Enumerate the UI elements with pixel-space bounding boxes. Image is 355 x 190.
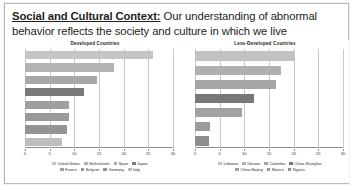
legend-swatch-icon bbox=[84, 162, 88, 166]
bar-row bbox=[195, 94, 343, 103]
bar-row bbox=[25, 88, 173, 96]
slide-frame: Social and Cultural Context: Our underst… bbox=[4, 3, 349, 184]
bar-row bbox=[25, 76, 173, 84]
axis-tick-label: 10 bbox=[242, 151, 247, 156]
legend-label: Japan bbox=[137, 161, 147, 166]
x-axis-developed: 051015202530 bbox=[25, 149, 173, 157]
bar-belgium bbox=[25, 113, 69, 121]
gridline bbox=[343, 49, 344, 148]
bar-row bbox=[25, 125, 173, 133]
legend-item-japan: Japan bbox=[132, 161, 147, 166]
legend-label: France bbox=[65, 167, 77, 172]
legend-swatch-icon bbox=[288, 168, 292, 172]
chart-title-developed: Developed Countries bbox=[11, 41, 179, 46]
legend-row: China-BeijingMexicoNigeria bbox=[235, 167, 304, 172]
axis-tick-label: 25 bbox=[146, 151, 151, 156]
legend-item-mexico: Mexico bbox=[267, 167, 284, 172]
bar-united-states bbox=[25, 51, 153, 59]
legend-label: Mexico bbox=[272, 167, 284, 172]
bar-china-shanghai bbox=[195, 94, 254, 103]
bar-row bbox=[195, 122, 343, 131]
legend-item-nigeria: Nigeria bbox=[288, 167, 305, 172]
legend-swatch-icon bbox=[52, 162, 56, 166]
legend-item-united-states: United States bbox=[52, 161, 80, 166]
legend-swatch-icon bbox=[81, 168, 85, 172]
bar-netherlands bbox=[25, 63, 114, 71]
axis-tick-label: 20 bbox=[121, 151, 126, 156]
legend-row: United StatesNetherlandsSpainJapan bbox=[52, 161, 147, 166]
legend-label: China-Shanghai bbox=[294, 161, 321, 166]
legend-item-china-shanghai: China-Shanghai bbox=[289, 161, 321, 166]
legend-label: Italy bbox=[133, 167, 140, 172]
axis-tick-label: 15 bbox=[267, 151, 272, 156]
bar-series-less-developed bbox=[195, 49, 343, 148]
bar-row bbox=[25, 51, 173, 59]
legend-label: Belgium bbox=[86, 167, 100, 172]
bar-series-developed bbox=[25, 49, 173, 148]
legend-swatch-icon bbox=[60, 168, 64, 172]
page-title: Social and Cultural Context: Our underst… bbox=[12, 9, 342, 38]
bar-row bbox=[195, 80, 343, 89]
legend-label: Nigeria bbox=[293, 167, 305, 172]
bar-ukraine bbox=[195, 66, 281, 75]
legend-swatch-icon bbox=[264, 162, 268, 166]
legend-swatch-icon bbox=[267, 168, 271, 172]
bar-row bbox=[195, 108, 343, 117]
bar-row bbox=[25, 101, 173, 109]
legend-label: Spain bbox=[119, 161, 129, 166]
legend-swatch-icon bbox=[103, 168, 107, 172]
legend-item-ukraine: Ukraine bbox=[242, 161, 260, 166]
axis-tick-label: 15 bbox=[97, 151, 102, 156]
legend-swatch-icon bbox=[114, 162, 118, 166]
legend-label: Ukraine bbox=[247, 161, 260, 166]
bar-lebanon bbox=[195, 51, 294, 60]
bar-nigeria bbox=[195, 136, 209, 145]
axis-tick-label: 0 bbox=[24, 151, 26, 156]
bar-colombia bbox=[195, 80, 276, 89]
legend-label: Germany bbox=[108, 167, 124, 172]
bar-row bbox=[195, 136, 343, 145]
bar-japan bbox=[25, 88, 84, 96]
legend-row: LebanonUkraineColombiaChina-Shanghai bbox=[218, 161, 321, 166]
legend-item-germany: Germany bbox=[103, 167, 124, 172]
bar-row bbox=[195, 51, 343, 60]
legend-less-developed: LebanonUkraineColombiaChina-ShanghaiChin… bbox=[195, 161, 345, 179]
legend-label: China-Beijing bbox=[240, 167, 263, 172]
bar-italy bbox=[25, 138, 62, 146]
axis-tick-label: 30 bbox=[171, 151, 176, 156]
legend-label: Netherlands bbox=[89, 161, 109, 166]
legend-swatch-icon bbox=[235, 168, 239, 172]
chart-developed-countries: Developed Countries 051015202530 United … bbox=[11, 40, 179, 183]
legend-label: Colombia bbox=[269, 161, 285, 166]
legend-item-belgium: Belgium bbox=[81, 167, 100, 172]
chart-less-developed-countries: Less-Developed Countries 051015202530 Le… bbox=[181, 40, 349, 183]
legend-swatch-icon bbox=[132, 162, 136, 166]
gridline bbox=[173, 49, 174, 148]
legend-row: FranceBelgiumGermanyItaly bbox=[60, 167, 140, 172]
bar-row bbox=[25, 113, 173, 121]
bar-germany bbox=[25, 125, 67, 133]
legend-item-china-beijing: China-Beijing bbox=[235, 167, 262, 172]
axis-tick-label: 25 bbox=[316, 151, 321, 156]
legend-item-colombia: Colombia bbox=[264, 161, 285, 166]
legend-label: United States bbox=[57, 161, 80, 166]
legend-label: Lebanon bbox=[223, 161, 238, 166]
legend-developed: United StatesNetherlandsSpainJapanFrance… bbox=[25, 161, 175, 179]
legend-item-lebanon: Lebanon bbox=[218, 161, 238, 166]
bar-mexico bbox=[195, 122, 210, 131]
legend-swatch-icon bbox=[218, 162, 222, 166]
title-lead-term: Social and Cultural Context: bbox=[12, 10, 160, 22]
bar-row bbox=[25, 138, 173, 146]
chart-title-less-developed: Less-Developed Countries bbox=[181, 41, 349, 46]
x-axis-less-developed: 051015202530 bbox=[195, 149, 343, 157]
axis-tick-label: 5 bbox=[49, 151, 51, 156]
axis-tick-label: 0 bbox=[194, 151, 196, 156]
bar-france bbox=[25, 101, 69, 109]
bar-china-beijing bbox=[195, 108, 242, 117]
legend-swatch-icon bbox=[242, 162, 246, 166]
plot-area-less-developed bbox=[195, 49, 343, 148]
legend-swatch-icon bbox=[289, 162, 293, 166]
legend-item-france: France bbox=[60, 167, 77, 172]
legend-item-italy: Italy bbox=[128, 167, 140, 172]
legend-item-spain: Spain bbox=[114, 161, 129, 166]
